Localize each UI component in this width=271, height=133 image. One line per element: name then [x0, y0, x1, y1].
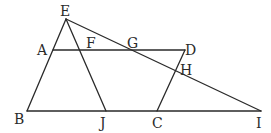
label-H: H: [180, 62, 192, 78]
label-F: F: [86, 35, 96, 51]
label-I: I: [256, 115, 262, 131]
label-E: E: [60, 3, 70, 19]
label-C: C: [152, 115, 163, 131]
label-A: A: [36, 42, 48, 58]
label-G: G: [127, 35, 138, 51]
label-J: J: [98, 115, 106, 131]
segment-EB: [27, 19, 66, 111]
label-D: D: [185, 42, 196, 58]
segment-DC: [157, 50, 185, 111]
geometry-diagram: E A F G D H B J C I: [0, 0, 271, 133]
point-labels: E A F G D H B J C I: [14, 3, 262, 131]
label-B: B: [14, 111, 24, 127]
segments: [27, 19, 261, 111]
segment-EJ: [66, 19, 106, 111]
